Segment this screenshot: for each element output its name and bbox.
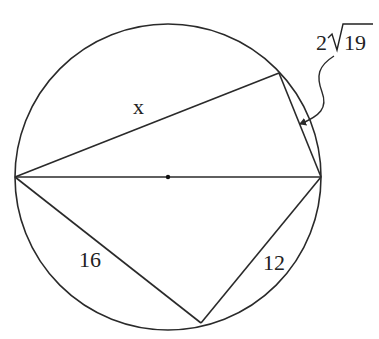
circle-diagram: x 2 19 16 12 bbox=[0, 0, 379, 339]
center-point bbox=[166, 175, 170, 179]
chord-2sqrt19 bbox=[279, 73, 321, 177]
label-coef: 2 bbox=[316, 30, 327, 55]
chord-x bbox=[15, 73, 279, 177]
label-radicand: 19 bbox=[344, 30, 366, 55]
label-12: 12 bbox=[263, 250, 285, 275]
label-2sqrt19: 2 19 bbox=[316, 24, 373, 55]
label-16: 16 bbox=[79, 247, 101, 272]
label-x: x bbox=[133, 94, 144, 119]
chord-16 bbox=[15, 177, 201, 323]
pointer-arrow bbox=[300, 56, 334, 124]
